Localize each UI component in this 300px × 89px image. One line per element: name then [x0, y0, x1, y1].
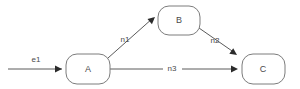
edge-e1[interactable]: e1: [8, 55, 62, 72]
graph-canvas: e1 n1 n2 n3 A B: [0, 0, 300, 89]
edge-label-e1: e1: [32, 55, 41, 64]
arrowhead-icon: [231, 66, 238, 73]
edge-n1-line: [108, 18, 153, 58]
node-b-label: B: [176, 15, 182, 25]
node-c-label: C: [260, 64, 267, 74]
edge-n2[interactable]: n2: [199, 28, 237, 55]
node-a-label: A: [85, 64, 91, 74]
node-c[interactable]: C: [242, 54, 285, 84]
edge-label-n3: n3: [168, 64, 177, 73]
edge-n3[interactable]: n3: [110, 64, 238, 73]
arrowhead-icon: [55, 66, 62, 73]
edge-n1[interactable]: n1: [108, 17, 155, 58]
edge-label-n2: n2: [211, 36, 220, 45]
node-a[interactable]: A: [66, 54, 110, 84]
graph-diagram: e1 n1 n2 n3 A B: [0, 0, 300, 89]
arrowhead-icon: [147, 17, 155, 24]
node-b[interactable]: B: [158, 6, 200, 35]
arrowhead-icon: [229, 48, 237, 55]
edge-label-n1: n1: [121, 35, 130, 44]
